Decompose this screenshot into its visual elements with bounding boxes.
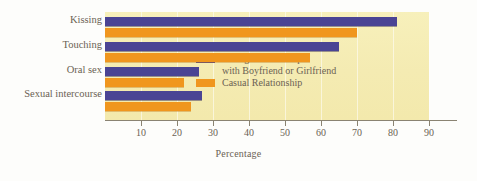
- x-axis-tick-label: 20: [162, 127, 192, 138]
- gridline: [429, 12, 430, 120]
- bar: [105, 42, 339, 51]
- x-axis-tick: [357, 121, 358, 126]
- x-axis-tick-label: 30: [198, 127, 228, 138]
- x-axis-tick-label: 80: [378, 127, 408, 138]
- x-axis-title: Percentage: [0, 148, 477, 159]
- x-axis-line: [105, 120, 457, 121]
- category-label: Kissing: [2, 14, 102, 25]
- bar: [105, 102, 191, 111]
- x-axis-tick-label: 70: [342, 127, 372, 138]
- x-axis-tick: [285, 121, 286, 126]
- bar-group: [105, 66, 429, 90]
- x-axis-tick: [213, 121, 214, 126]
- bar-group: [105, 16, 429, 40]
- x-axis-tick-label: 60: [306, 127, 336, 138]
- bar: [105, 28, 357, 37]
- bar: [105, 78, 184, 87]
- x-axis-tick: [393, 121, 394, 126]
- x-axis-tick-label: 10: [126, 127, 156, 138]
- category-label: Oral sex: [2, 64, 102, 75]
- category-label: Sexual intercourse: [2, 88, 102, 99]
- x-axis-tick: [321, 121, 322, 126]
- bar-chart-figure: Percentage Dating Relationship with Boyf…: [0, 0, 477, 181]
- bar: [105, 67, 199, 76]
- x-axis-tick: [429, 121, 430, 126]
- x-axis-tick: [141, 121, 142, 126]
- x-axis-tick-label: 40: [234, 127, 264, 138]
- x-axis-tick: [177, 121, 178, 126]
- bar: [105, 91, 202, 100]
- x-axis-tick-label: 90: [414, 127, 444, 138]
- bar-group: [105, 41, 429, 65]
- bar: [105, 17, 397, 26]
- bar: [105, 53, 310, 62]
- x-axis-tick-label: 50: [270, 127, 300, 138]
- x-axis-tick: [249, 121, 250, 126]
- category-label: Touching: [2, 39, 102, 50]
- bar-group: [105, 90, 429, 114]
